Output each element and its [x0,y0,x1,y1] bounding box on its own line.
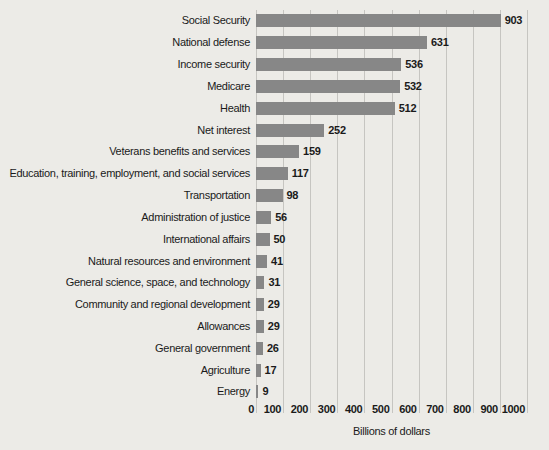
category-label: General science, space, and technology [0,277,256,288]
value-label: 41 [271,256,283,267]
bar-track: 31 [256,276,527,289]
value-label: 9 [262,386,268,397]
bar [256,124,324,137]
x-tick-label: 400 [345,404,365,415]
bar [256,233,270,246]
value-label: 98 [287,190,299,201]
category-label: International affairs [0,234,256,245]
bar [256,320,264,333]
category-label: Transportation [0,190,256,201]
bar-track: 50 [256,233,527,246]
x-tick-label: 800 [453,404,473,415]
bar-row: General science, space, and technology31 [0,272,549,294]
x-tick-label: 700 [426,404,446,415]
category-label: Veterans benefits and services [0,146,256,157]
bar-row: Social Security903 [0,10,549,32]
bar [256,36,427,49]
value-label: 536 [405,59,422,70]
value-label: 512 [399,103,416,114]
bar-track: 532 [256,80,527,93]
bar-row: Net interest252 [0,119,549,141]
value-label: 26 [267,343,279,354]
value-label: 50 [274,234,286,245]
x-tick-label: 300 [318,404,338,415]
x-tick-label: 100 [264,404,284,415]
bar-track: 252 [256,124,527,137]
bar [256,298,264,311]
category-label: Medicare [0,81,256,92]
bar-row: Health512 [0,97,549,119]
category-label: Education, training, employment, and soc… [0,168,256,179]
bar-track: 56 [256,211,527,224]
bar-row: Energy9 [0,381,549,403]
bar-row: Agriculture17 [0,359,549,381]
x-tick-label: 200 [291,404,311,415]
bar-row: Administration of justice56 [0,206,549,228]
bar-track: 41 [256,255,527,268]
category-label: General government [0,343,256,354]
bar [256,189,283,202]
bar [256,145,299,158]
category-label: Agriculture [0,365,256,376]
bar-track: 631 [256,36,527,49]
federal-outlays-bar-chart: Social Security903National defense631Inc… [0,0,549,450]
value-label: 17 [265,365,277,376]
bar [256,211,271,224]
bar-track: 117 [256,167,527,180]
bar-track: 29 [256,320,527,333]
value-label: 56 [275,212,287,223]
bar-row: Transportation98 [0,185,549,207]
x-tick-label: 1000 [502,404,528,415]
bar-track: 512 [256,102,527,115]
category-label: Administration of justice [0,212,256,223]
bar-track: 17 [256,364,527,377]
category-label: National defense [0,37,256,48]
value-label: 31 [268,277,280,288]
bar-row: Education, training, employment, and soc… [0,163,549,185]
bar-row: International affairs50 [0,228,549,250]
bar-rows: Social Security903National defense631Inc… [0,10,549,403]
value-label: 903 [505,15,522,26]
bar [256,342,263,355]
bar [256,385,258,398]
bar [256,167,288,180]
value-label: 159 [303,146,320,157]
bar [256,102,395,115]
bar-row: Medicare532 [0,75,549,97]
bar [256,80,400,93]
bar-track: 159 [256,145,527,158]
category-label: Natural resources and environment [0,256,256,267]
x-tick-label: 500 [372,404,392,415]
value-label: 631 [431,37,448,48]
bar-track: 98 [256,189,527,202]
value-label: 532 [404,81,421,92]
category-label: Social Security [0,15,256,26]
x-tick-label: 0 [248,404,257,415]
x-axis-title: Billions of dollars [256,426,527,437]
bar [256,364,261,377]
bar-track: 536 [256,58,527,71]
value-label: 117 [292,168,309,179]
category-label: Energy [0,386,256,397]
bar [256,276,264,289]
bar [256,14,501,27]
bar-row: Allowances29 [0,316,549,338]
value-label: 29 [268,299,280,310]
x-tick-label: 600 [399,404,419,415]
category-label: Health [0,103,256,114]
bar-track: 29 [256,298,527,311]
bar-row: General government26 [0,337,549,359]
bar-track: 9 [256,385,527,398]
bar [256,58,401,71]
bar-row: Community and regional development29 [0,294,549,316]
bar-track: 26 [256,342,527,355]
value-label: 252 [328,125,345,136]
category-label: Community and regional development [0,299,256,310]
bar-row: National defense631 [0,32,549,54]
category-label: Income security [0,59,256,70]
value-label: 29 [268,321,280,332]
category-label: Net interest [0,125,256,136]
bar-row: Veterans benefits and services159 [0,141,549,163]
x-tick-label: 900 [480,404,500,415]
x-axis: 01002003004005006007008009001000 [256,404,527,417]
